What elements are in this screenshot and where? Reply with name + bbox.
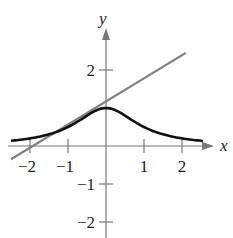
- x-axis-arrow-icon: [202, 142, 214, 150]
- x-tick-label: −1: [56, 157, 74, 176]
- y-axis-label: y: [97, 9, 107, 28]
- y-tick-label: 2: [87, 61, 96, 80]
- y-axis-arrow-icon: [102, 28, 110, 40]
- x-tick-label: 2: [178, 157, 187, 176]
- x-axis-label: x: [219, 136, 228, 155]
- y-tick-label: −2: [77, 213, 95, 232]
- tangent-line: [11, 53, 186, 159]
- axes: x y: [8, 9, 228, 238]
- function-graph: x y −2−1122−1−2: [0, 0, 233, 238]
- y-tick-label: −1: [77, 175, 95, 194]
- x-tick-label: −2: [18, 157, 36, 176]
- function-curve: [11, 108, 203, 141]
- series: [11, 53, 203, 159]
- x-tick-label: 1: [140, 157, 149, 176]
